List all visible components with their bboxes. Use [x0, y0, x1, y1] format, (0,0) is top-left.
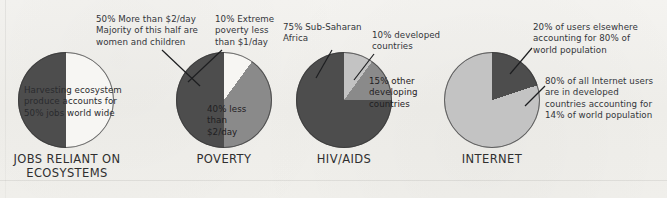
note-internet-developed-countries: 80% of all Internet users are in develop… — [545, 76, 667, 122]
note-poverty-more-than-2-a-day: 50% More than $2/day Majority of this ha… — [96, 14, 222, 48]
chart-internet-caption: INTERNET — [432, 152, 552, 166]
leader-line-internet-bottom — [521, 84, 549, 110]
leader-line-internet-top — [506, 46, 538, 78]
pie-jobs-inside-label: Harvesting ecosystem produce accounts fo… — [24, 85, 128, 119]
pie-hiv-inside-label: 15% other developing countries — [369, 76, 431, 110]
leader-line-hiv-left — [310, 48, 340, 82]
pie-poverty-inside-label: 40% less than $2/day — [207, 104, 265, 138]
page-bottom-line — [0, 180, 667, 181]
chart-hiv-caption: HIV/AIDS — [286, 152, 402, 166]
note-internet-users-elsewhere: 20% of users elsewhere accounting for 80… — [533, 22, 667, 56]
chart-jobs-caption: JOBS RELIANT ON ECOSYSTEMS — [6, 152, 128, 180]
chart-poverty-caption: POVERTY — [164, 152, 284, 166]
note-poverty-extreme-poverty: 10% Extreme poverty less than $1/day — [215, 14, 287, 48]
note-hiv-sub-saharan-africa: 75% Sub-Saharan Africa — [283, 22, 375, 45]
note-hiv-developed-countries: 10% developed countries — [372, 30, 464, 53]
leader-line-poverty-right — [186, 48, 228, 86]
